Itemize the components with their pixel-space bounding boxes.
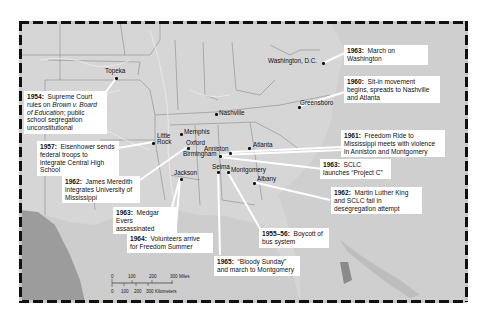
callout-bus-boycott: 1955–56: Boycott of bus system bbox=[259, 228, 329, 248]
callout-project-c: 1963: SCLC launches “Project C” bbox=[320, 159, 391, 179]
frame-border-right bbox=[465, 21, 468, 302]
city-label-atlanta: Atlanta bbox=[253, 142, 273, 148]
city-label-selma: Selma bbox=[212, 164, 230, 170]
event-year: 1964: bbox=[130, 235, 147, 242]
city-label-topeka: Topeka bbox=[105, 68, 125, 74]
city-dot-selma bbox=[217, 171, 220, 174]
event-year: 1961: bbox=[344, 132, 361, 139]
event-year: 1963: bbox=[323, 161, 340, 168]
city-dot-memphis bbox=[180, 133, 183, 136]
callout-medgar-evers: 1963: Medgar Evers assassinated bbox=[113, 207, 177, 234]
callout-little-rock: 1957: Eisenhower sends federal troops to… bbox=[37, 141, 119, 176]
event-year: 1955–56: bbox=[262, 230, 290, 237]
city-dot-washington bbox=[322, 62, 325, 65]
scale-miles-200: 200 bbox=[149, 274, 157, 279]
scale-miles-300: 300 Miles bbox=[170, 274, 190, 279]
city-label-nashville: Nashville bbox=[219, 110, 245, 116]
city-label-little-rock: Little Rock bbox=[157, 133, 177, 145]
city-dot-birmingham bbox=[219, 155, 222, 158]
frame-border-bottom bbox=[19, 300, 467, 303]
city-label-greensboro: Greensboro bbox=[300, 100, 333, 106]
city-label-birmingham: Birmingham bbox=[183, 151, 217, 157]
city-dot-atlanta bbox=[248, 147, 251, 150]
callout-bloody-sunday: 1965: “Bloody Sunday” and march to Montg… bbox=[214, 256, 300, 276]
scale-km-200: 200 bbox=[134, 289, 142, 294]
city-dot-jackson bbox=[180, 178, 183, 181]
callout-sit-in-movement: 1960: Sit-in movement begins, spreads to… bbox=[344, 76, 440, 103]
city-label-jackson: Jackson bbox=[174, 170, 197, 176]
city-dot-little-rock bbox=[152, 142, 155, 145]
city-label-memphis: Memphis bbox=[184, 129, 210, 135]
city-label-albany: Albany bbox=[257, 176, 276, 182]
event-year: 1963: bbox=[116, 209, 133, 216]
scale-miles-0: 0 bbox=[111, 274, 114, 279]
event-year: 1965: bbox=[217, 258, 234, 265]
city-dot-montgomery bbox=[227, 171, 230, 174]
city-label-oxford: Oxford bbox=[186, 140, 205, 146]
callout-brown-v-board: 1954: Supreme Court rules on Brown v. Bo… bbox=[24, 91, 107, 134]
city-dot-greensboro bbox=[298, 106, 301, 109]
frame-border-left bbox=[19, 21, 22, 302]
scale-km-100: 100 bbox=[121, 289, 129, 294]
event-year: 1954: bbox=[27, 93, 44, 100]
city-label-montgomery: Montgomery bbox=[231, 167, 266, 173]
frame-border-top bbox=[19, 21, 467, 24]
city-dot-nashville bbox=[215, 113, 218, 116]
event-year: 1963: bbox=[347, 47, 364, 54]
callout-march-on-washington: 1963: March on Washington bbox=[344, 45, 428, 65]
city-dot-anniston bbox=[229, 152, 232, 155]
callout-freedom-ride: 1961: Freedom Ride to Mississippi meets … bbox=[341, 130, 445, 157]
city-dot-topeka bbox=[115, 77, 118, 80]
event-year: 1960: bbox=[347, 78, 364, 85]
event-year: 1962: bbox=[334, 189, 351, 196]
scale-km-300: 300 Kilometers bbox=[146, 289, 177, 294]
city-dot-albany bbox=[253, 182, 256, 185]
scale-km-0: 0 bbox=[111, 289, 114, 294]
callout-freedom-summer: 1964: Volunteers arrive for Freedom Summ… bbox=[127, 233, 213, 253]
event-year: 1957: bbox=[40, 143, 57, 150]
callout-james-meredith: 1962: James Meredith integrates Universi… bbox=[62, 176, 140, 203]
event-year: 1962: bbox=[65, 178, 82, 185]
callout-albany-movement: 1962: Martin Luther King and SCLC fail i… bbox=[331, 187, 422, 214]
scale-miles-100: 100 bbox=[128, 274, 136, 279]
city-label-washington: Washington, D.C. bbox=[268, 58, 317, 64]
